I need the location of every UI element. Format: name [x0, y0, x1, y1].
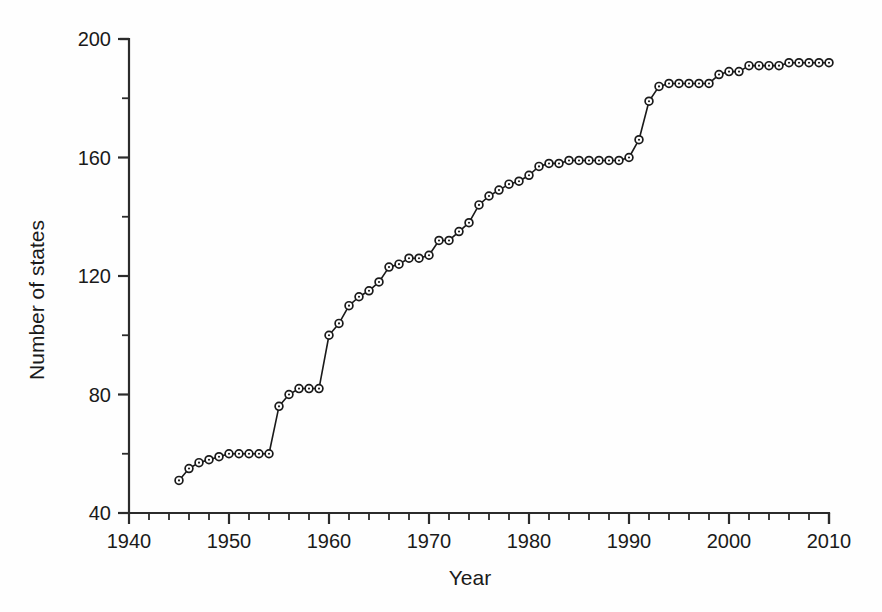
data-point-center — [778, 65, 780, 67]
data-point-center — [278, 405, 280, 407]
data-point-center — [378, 281, 380, 283]
data-point-center — [218, 456, 220, 458]
chart-figure: 1940195019601970198019902000201040801201… — [0, 0, 882, 612]
data-point-center — [528, 174, 530, 176]
axis-spines — [129, 39, 829, 513]
data-point-center — [538, 165, 540, 167]
data-point-center — [478, 204, 480, 206]
x-tick-label: 2010 — [807, 530, 852, 552]
data-point-center — [438, 239, 440, 241]
data-point-center — [428, 254, 430, 256]
data-point-center — [708, 82, 710, 84]
data-point-center — [268, 453, 270, 455]
data-point-center — [418, 257, 420, 259]
data-point-center — [748, 65, 750, 67]
data-point-center — [758, 65, 760, 67]
x-tick-label: 1990 — [607, 530, 652, 552]
data-point-center — [198, 462, 200, 464]
y-tick-label: 160 — [78, 147, 111, 169]
data-point-center — [298, 388, 300, 390]
x-axis-title: Year — [449, 566, 491, 589]
data-point-center — [558, 162, 560, 164]
data-point-center — [178, 479, 180, 481]
data-point-center — [188, 468, 190, 470]
x-tick-label: 1970 — [407, 530, 452, 552]
line-chart-canvas: 1940195019601970198019902000201040801201… — [0, 0, 882, 612]
data-point-center — [608, 159, 610, 161]
data-point-center — [398, 263, 400, 265]
data-point-center — [388, 266, 390, 268]
data-point-center — [288, 393, 290, 395]
y-axis-title: Number of states — [25, 220, 48, 380]
data-point-center — [318, 388, 320, 390]
data-point-center — [698, 82, 700, 84]
data-point-center — [828, 62, 830, 64]
data-point-center — [718, 74, 720, 76]
data-point-center — [788, 62, 790, 64]
data-point-center — [498, 189, 500, 191]
data-point-center — [258, 453, 260, 455]
data-point-center — [638, 139, 640, 141]
data-point-center — [598, 159, 600, 161]
axis-tick-labels: 1940195019601970198019902000201040801201… — [78, 28, 852, 552]
data-point-center — [578, 159, 580, 161]
series-line-0 — [179, 63, 829, 481]
y-tick-label: 40 — [89, 502, 111, 524]
data-point-center — [508, 183, 510, 185]
data-point-center — [628, 156, 630, 158]
data-point-center — [348, 305, 350, 307]
x-tick-label: 1950 — [207, 530, 252, 552]
data-point-center — [588, 159, 590, 161]
y-tick-label: 200 — [78, 28, 111, 50]
x-tick-label: 1940 — [107, 530, 152, 552]
data-point-center — [798, 62, 800, 64]
data-point-center — [408, 257, 410, 259]
data-point-center — [728, 71, 730, 73]
data-point-center — [768, 65, 770, 67]
axis-ticks — [118, 39, 829, 524]
x-tick-label: 1960 — [307, 530, 352, 552]
data-point-center — [308, 388, 310, 390]
y-tick-label: 80 — [89, 384, 111, 406]
data-point-center — [458, 231, 460, 233]
x-tick-label: 1980 — [507, 530, 552, 552]
data-series — [175, 59, 833, 485]
data-point-center — [678, 82, 680, 84]
data-point-center — [658, 85, 660, 87]
data-point-center — [448, 239, 450, 241]
data-point-center — [338, 322, 340, 324]
data-point-center — [468, 222, 470, 224]
data-point-center — [518, 180, 520, 182]
data-point-center — [228, 453, 230, 455]
data-point-center — [208, 459, 210, 461]
data-point-center — [818, 62, 820, 64]
data-point-center — [738, 71, 740, 73]
data-point-center — [648, 100, 650, 102]
x-tick-label: 2000 — [707, 530, 752, 552]
data-point-center — [368, 290, 370, 292]
data-point-center — [808, 62, 810, 64]
y-tick-label: 120 — [78, 265, 111, 287]
data-point-center — [668, 82, 670, 84]
data-point-center — [238, 453, 240, 455]
data-point-center — [358, 296, 360, 298]
data-point-center — [488, 195, 490, 197]
data-point-center — [248, 453, 250, 455]
data-point-center — [568, 159, 570, 161]
data-point-center — [548, 162, 550, 164]
data-point-center — [688, 82, 690, 84]
data-point-center — [328, 334, 330, 336]
data-point-center — [618, 159, 620, 161]
